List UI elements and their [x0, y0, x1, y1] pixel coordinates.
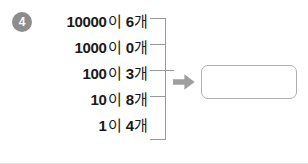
list-item: 1000이0개 — [38, 35, 148, 61]
count-unit: 개 — [134, 91, 148, 108]
bracket-tick — [150, 70, 166, 71]
right-arrow-icon — [172, 71, 196, 93]
particle: 이 — [108, 13, 122, 30]
count-value: 4 — [126, 117, 134, 134]
particle: 이 — [108, 39, 122, 56]
count-unit: 개 — [134, 65, 148, 82]
count-unit: 개 — [134, 39, 148, 56]
bracket-tick — [150, 139, 166, 140]
place-value: 10 — [91, 91, 107, 108]
list-item: 10이8개 — [38, 87, 148, 113]
list-item: 100이3개 — [38, 61, 148, 87]
place-value: 100 — [83, 65, 107, 82]
count-value: 3 — [126, 65, 134, 82]
place-value: 1 — [99, 117, 107, 134]
bracket-tick — [150, 44, 166, 45]
place-value: 10000 — [66, 13, 106, 30]
particle: 이 — [108, 65, 122, 82]
count-unit: 개 — [134, 117, 148, 134]
bracket-spine — [165, 18, 166, 140]
bracket-tick — [150, 96, 166, 97]
problem-number-badge: 4 — [12, 12, 32, 32]
particle: 이 — [108, 91, 122, 108]
grouping-bracket — [150, 18, 166, 140]
problem-container: 4 10000이6개 1000이0개 100이3개 10이8개 1이4개 — [0, 0, 308, 164]
bracket-tick — [150, 18, 166, 19]
list-item: 1이4개 — [38, 113, 148, 139]
count-value: 8 — [126, 91, 134, 108]
count-value: 0 — [126, 39, 134, 56]
particle: 이 — [108, 117, 122, 134]
count-value: 6 — [126, 13, 134, 30]
place-value-list: 10000이6개 1000이0개 100이3개 10이8개 1이4개 — [38, 9, 148, 139]
count-unit: 개 — [134, 13, 148, 30]
place-value: 1000 — [74, 39, 106, 56]
answer-input-box[interactable] — [201, 65, 297, 99]
list-item: 10000이6개 — [38, 9, 148, 35]
